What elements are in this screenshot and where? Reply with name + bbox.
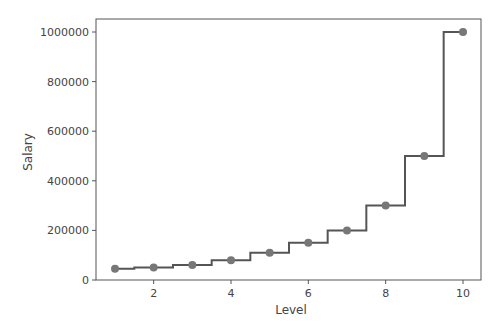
y-tick-label: 800000 — [47, 76, 89, 89]
x-axis-ticks: 246810 — [150, 280, 470, 300]
axes-border — [96, 19, 481, 280]
x-tick-label: 8 — [382, 287, 389, 300]
data-point-marker — [150, 264, 158, 272]
y-tick-label: 400000 — [47, 175, 89, 188]
data-point-marker — [343, 226, 351, 234]
y-tick-label: 200000 — [47, 224, 89, 237]
data-point-marker — [420, 152, 428, 160]
x-axis-label: Level — [275, 303, 307, 317]
data-point-marker — [304, 239, 312, 247]
x-tick-label: 10 — [456, 287, 470, 300]
data-point-marker — [459, 28, 467, 36]
data-point-marker — [266, 249, 274, 257]
data-point-marker — [111, 265, 119, 273]
salary-step-chart: 02000004000006000008000001000000 246810 … — [0, 0, 504, 333]
x-tick-label: 2 — [150, 287, 157, 300]
y-axis-label: Salary — [21, 133, 35, 171]
y-axis-ticks: 02000004000006000008000001000000 — [40, 26, 96, 287]
plot-area-frame — [96, 19, 481, 280]
step-line — [115, 32, 463, 269]
data-point-marker — [227, 256, 235, 264]
x-tick-label: 4 — [228, 287, 235, 300]
x-tick-label: 6 — [305, 287, 312, 300]
y-tick-label: 1000000 — [40, 26, 89, 39]
salary-series — [111, 28, 467, 273]
data-point-marker — [188, 261, 196, 269]
y-tick-label: 0 — [82, 274, 89, 287]
y-tick-label: 600000 — [47, 125, 89, 138]
data-point-marker — [382, 202, 390, 210]
